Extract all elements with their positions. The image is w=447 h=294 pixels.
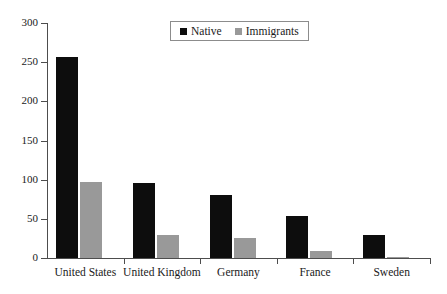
bar-native: [286, 216, 308, 258]
bar-immigrants: [80, 182, 102, 258]
y-axis-tick-label: 200: [0, 95, 38, 106]
bar-immigrants: [310, 251, 332, 258]
x-axis-tick: [200, 259, 201, 264]
y-axis-tick-label-text: 150: [2, 135, 38, 146]
y-axis-tick-label: 100: [0, 174, 38, 185]
bar-group: [286, 23, 332, 258]
y-axis-tick-label: 0: [0, 252, 38, 263]
y-axis-tick: [41, 258, 47, 259]
y-axis-tick-label: 150: [0, 135, 38, 146]
bar-native: [363, 235, 385, 259]
x-axis-label: Sweden: [343, 266, 440, 279]
bar-immigrants: [387, 257, 409, 258]
y-axis-tick-label-text: 50: [2, 213, 38, 224]
bar-immigrants: [234, 238, 256, 258]
bar-native: [133, 183, 155, 258]
y-axis-tick-label-text: 100: [2, 174, 38, 185]
y-axis-tick-label: 300: [0, 17, 38, 28]
x-axis-tick: [430, 259, 431, 264]
y-axis-tick-label: 50: [0, 213, 38, 224]
y-axis-tick-label-text: 300: [2, 17, 38, 28]
plot-area: [47, 23, 430, 258]
bar-native: [210, 195, 232, 258]
y-axis-tick-label-text: 200: [2, 95, 38, 106]
bar-group: [56, 23, 102, 258]
x-axis-tick: [124, 259, 125, 264]
x-axis-tick: [277, 259, 278, 264]
y-axis-tick-label: 250: [0, 56, 38, 67]
bar-group: [133, 23, 179, 258]
bar-immigrants: [157, 235, 179, 259]
x-axis-tick: [353, 259, 354, 264]
bar-group: [363, 23, 409, 258]
bar-group: [210, 23, 256, 258]
bar-native: [56, 57, 78, 258]
y-axis-tick-label-text: 250: [2, 56, 38, 67]
x-axis-line: [47, 258, 431, 259]
y-axis-tick-label-text: 0: [2, 252, 38, 263]
bar-chart: Native Immigrants 050100150200250300 Uni…: [0, 0, 447, 294]
